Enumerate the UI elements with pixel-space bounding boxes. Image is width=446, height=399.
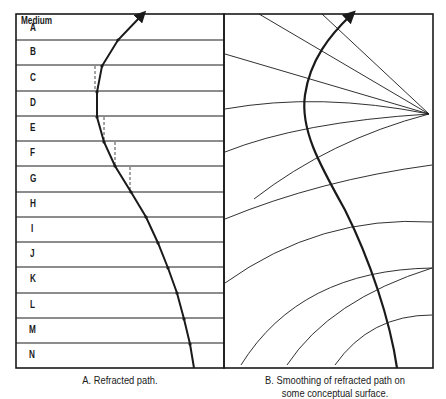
medium-label-h: H (30, 198, 36, 209)
refraction-diagram (0, 0, 446, 399)
medium-label-d: D (30, 97, 36, 108)
medium-label-k: K (30, 273, 36, 284)
medium-header: Medium (21, 15, 52, 26)
medium-label-n: N (29, 349, 35, 360)
medium-label-l: L (30, 299, 35, 310)
medium-label-c: C (30, 72, 36, 83)
medium-label-e: E (30, 122, 35, 133)
panel-a (16, 14, 224, 368)
medium-label-f: F (30, 147, 35, 158)
caption-panel-b-line1: B. Smoothing of refracted path on (250, 373, 420, 387)
medium-label-m: M (29, 324, 36, 335)
panel-a-frame (16, 14, 224, 368)
panel-b (224, 14, 433, 368)
caption-panel-b-line2: some conceptual surface. (250, 386, 420, 399)
medium-label-b: B (30, 46, 36, 57)
medium-label-a: A (30, 22, 36, 33)
medium-boundaries (16, 40, 224, 343)
medium-label-j: J (30, 248, 35, 259)
panel-b-frame (224, 14, 433, 368)
wavefront-lines (225, 14, 432, 365)
medium-label-i: I (31, 223, 33, 234)
medium-label-g: G (30, 173, 36, 184)
caption-panel-a: A. Refracted path. (52, 373, 188, 387)
